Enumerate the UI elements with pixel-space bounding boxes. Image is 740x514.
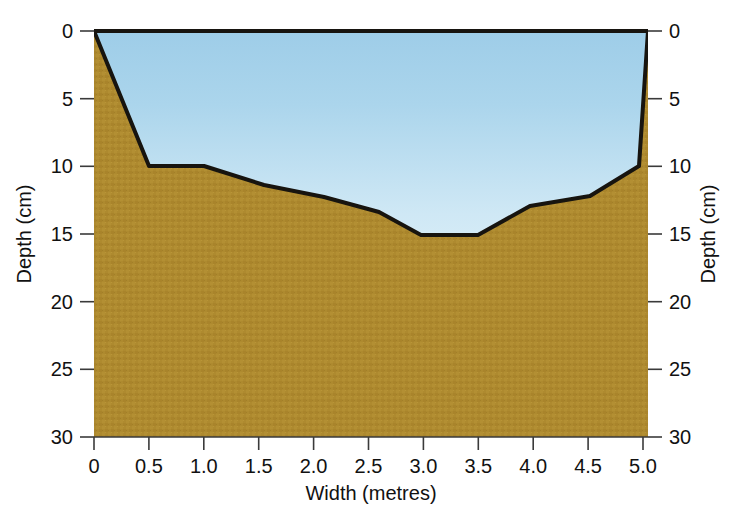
- x-tick-label: 2.0: [300, 455, 328, 477]
- y-right-tick-label: 10: [669, 155, 691, 177]
- y-left-tick-label: 20: [51, 291, 73, 313]
- chart-canvas: 0 5 10 15 20 25 30 0 5 10 15 20 25 30 0 …: [0, 0, 740, 514]
- y-left-tick-label: 25: [51, 358, 73, 380]
- x-axis-ticks: [94, 437, 643, 450]
- y-left-tick-label: 10: [51, 155, 73, 177]
- y-right-tick-label: 15: [669, 223, 691, 245]
- y-axis-title-left: Depth (cm): [13, 185, 35, 284]
- x-tick-label: 2.5: [355, 455, 383, 477]
- x-tick-label: 1.5: [245, 455, 273, 477]
- stream-cross-section-figure: 0 5 10 15 20 25 30 0 5 10 15 20 25 30 0 …: [0, 0, 740, 514]
- y-axis-right-ticks: [648, 31, 662, 437]
- x-axis-title: Width (metres): [305, 482, 436, 504]
- y-axis-title-right: Depth (cm): [697, 185, 719, 284]
- x-axis-tick-labels: 0 0.5 1.0 1.5 2.0 2.5 3.0 3.5 4.0 4.5 5.…: [88, 455, 656, 477]
- y-axis-right-tick-labels: 0 5 10 15 20 25 30: [669, 20, 691, 448]
- y-left-tick-label: 15: [51, 223, 73, 245]
- x-tick-label: 3.5: [464, 455, 492, 477]
- y-left-tick-label: 30: [51, 426, 73, 448]
- y-axis-left-ticks: [80, 31, 94, 437]
- y-right-tick-label: 5: [669, 88, 680, 110]
- x-tick-label: 3.0: [409, 455, 437, 477]
- x-tick-label: 5.0: [629, 455, 657, 477]
- x-tick-label: 4.5: [574, 455, 602, 477]
- x-tick-label: 4.0: [519, 455, 547, 477]
- x-tick-label: 1.0: [190, 455, 218, 477]
- y-right-tick-label: 25: [669, 358, 691, 380]
- y-left-tick-label: 0: [62, 20, 73, 42]
- y-left-tick-label: 5: [62, 88, 73, 110]
- y-right-tick-label: 30: [669, 426, 691, 448]
- y-axis-left-tick-labels: 0 5 10 15 20 25 30: [51, 20, 73, 448]
- y-right-tick-label: 0: [669, 20, 680, 42]
- y-right-tick-label: 20: [669, 291, 691, 313]
- x-tick-label: 0: [88, 455, 99, 477]
- x-tick-label: 0.5: [135, 455, 163, 477]
